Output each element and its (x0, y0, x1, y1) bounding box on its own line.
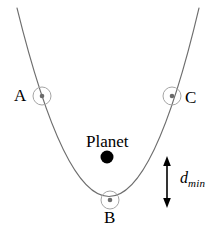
marker-c-dot (170, 94, 175, 99)
marker-b-dot (108, 198, 113, 203)
planet-dot (101, 151, 114, 164)
point-a-label: A (14, 87, 26, 104)
dmin-subscript: min (188, 177, 205, 189)
marker-point-b (101, 191, 119, 209)
dmin-arrowhead-down (163, 198, 171, 208)
dmin-arrowhead-up (163, 156, 171, 166)
dmin-label: dmin (180, 170, 205, 189)
trajectory-diagram (0, 0, 212, 235)
trajectory-curve (17, 8, 199, 197)
marker-point-a (33, 87, 51, 105)
marker-point-c (163, 87, 181, 105)
point-b-label: B (104, 209, 115, 226)
marker-a-dot (40, 94, 45, 99)
planet-label: Planet (86, 133, 129, 150)
dmin-symbol: d (180, 169, 188, 186)
point-c-label: C (185, 89, 196, 106)
dmin-arrow (163, 156, 171, 208)
